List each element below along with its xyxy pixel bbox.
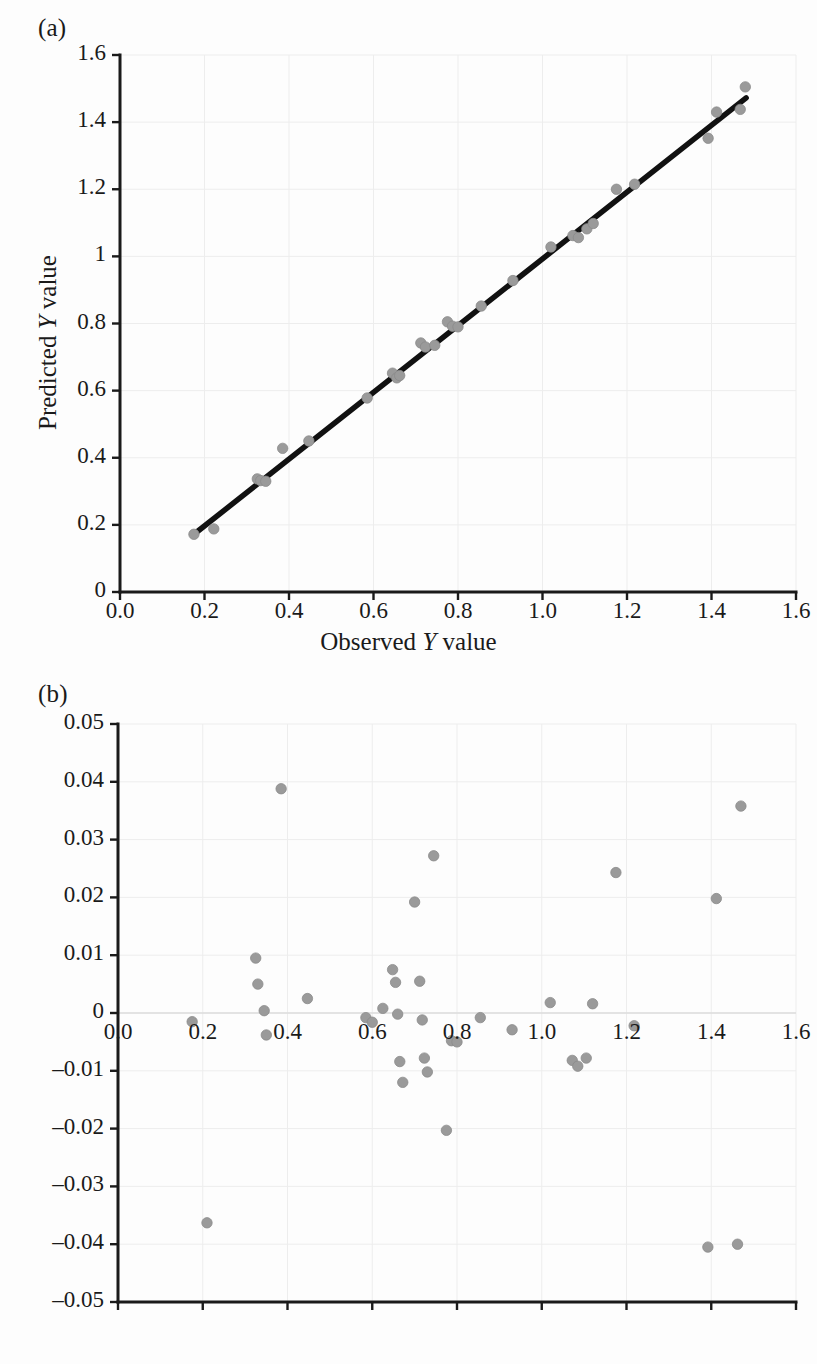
x-tick-label: 0.8 (422, 1019, 492, 1045)
y-tick-label: 1.4 (77, 107, 106, 133)
y-tick-label: 0.01 (64, 940, 104, 966)
figure-root: (a) Observed Y value Predicted Y value 0… (0, 0, 817, 1364)
y-tick-label: 1.6 (77, 40, 106, 66)
x-tick-label: 0.6 (339, 598, 409, 624)
y-tick-label: 0.02 (64, 882, 104, 908)
x-tick-label: 1.6 (761, 1019, 817, 1045)
y-tick-label: –0.04 (52, 1229, 104, 1255)
x-tick-label: 1.0 (508, 598, 578, 624)
y-tick-label: –0.02 (52, 1114, 104, 1140)
x-tick-label: 0.6 (337, 1019, 407, 1045)
panel-b: (b) Observed Y value Residual Error 0.05… (0, 672, 817, 1364)
y-tick-label: 0.03 (64, 825, 104, 851)
x-tick-label: 0.0 (85, 598, 155, 624)
y-tick-label: 0.6 (77, 376, 106, 402)
x-tick-label: 1.2 (592, 598, 662, 624)
y-tick-label: 0.04 (64, 767, 104, 793)
panel-a-plot (0, 0, 817, 672)
panel-b-plot (0, 672, 817, 1364)
y-tick-label: –0.03 (52, 1171, 104, 1197)
x-tick-label: 0.8 (423, 598, 493, 624)
x-tick-label: 1.6 (761, 598, 817, 624)
y-tick-label: 0.05 (64, 709, 104, 735)
y-tick-label: 0.8 (77, 309, 106, 335)
panel-a-yaxis-title: Predicted Y value (34, 255, 62, 430)
x-tick-label: 1.4 (676, 1019, 746, 1045)
x-tick-label: 0.2 (170, 598, 240, 624)
x-tick-label: 0.4 (253, 1019, 323, 1045)
x-tick-label: 1.0 (507, 1019, 577, 1045)
x-tick-label: 0.2 (168, 1019, 238, 1045)
x-tick-label: 1.2 (592, 1019, 662, 1045)
panel-a: (a) Observed Y value Predicted Y value 0… (0, 0, 817, 672)
y-tick-label: 0.4 (77, 443, 106, 469)
x-tick-label: 0.0 (83, 1019, 153, 1045)
y-tick-label: 1.2 (77, 174, 106, 200)
x-tick-label: 1.4 (677, 598, 747, 624)
panel-a-xaxis-title: Observed Y value (0, 628, 817, 656)
x-tick-label: 0.4 (254, 598, 324, 624)
y-tick-label: –0.01 (52, 1056, 104, 1082)
y-tick-label: –0.05 (52, 1287, 104, 1313)
y-tick-label: 0.2 (77, 510, 106, 536)
y-tick-label: 1 (95, 241, 107, 267)
